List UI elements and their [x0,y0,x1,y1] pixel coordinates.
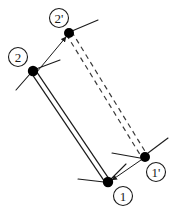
figure-container: 121'2' [0,0,173,208]
node-dot-node-2-prime [64,28,74,38]
node-label-2-prime: 2' [50,9,69,28]
node-label-2: 2 [9,48,28,67]
beam-displacement-diagram: 121'2' [0,0,173,208]
original-element-double-line [31,72,106,183]
tangent-mark-node-1-prime-upper [148,138,168,153]
node-label-2-prime-text: 2' [55,11,64,26]
displacement-arrow-node-2 [36,37,66,73]
node-label-2-text: 2 [15,50,22,65]
original-element-double-line [35,70,110,181]
tangent-mark-node-2-lower [16,74,30,90]
node-dot-node-1-prime [140,152,150,162]
displaced-element-double-dashed-line [72,31,148,155]
displacement-arrow-node-1 [112,160,141,180]
node-dot-node-1 [103,177,113,187]
node-labels-layer: 121'2' [9,9,166,206]
node-label-1-prime-text: 1' [152,165,161,180]
tangent-mark-node-1-left [78,179,104,182]
displaced-element-double-dashed-line [66,35,142,159]
tangent-mark-node-2-upper [36,60,60,69]
tangent-mark-node-2-prime [72,20,98,31]
nodes-layer [28,28,150,187]
node-label-1-prime: 1' [147,163,166,182]
tangent-mark-node-1-prime-left [112,153,140,158]
node-label-1-text: 1 [120,189,127,204]
node-dot-node-2 [28,66,38,76]
node-label-1: 1 [114,187,133,206]
members-layer [31,31,148,183]
